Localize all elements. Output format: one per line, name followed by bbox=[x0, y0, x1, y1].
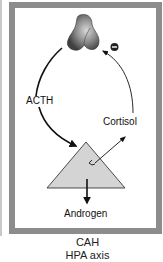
cortisol-label: Cortisol bbox=[103, 117, 137, 127]
hpa-axis-diagram bbox=[0, 0, 163, 262]
cortisol-feedback-arrow bbox=[103, 51, 133, 113]
acth-arrow-lower bbox=[39, 107, 76, 146]
cortisol-output-arrow bbox=[95, 137, 125, 163]
pituitary-gland-icon bbox=[67, 14, 99, 50]
adrenal-triangle-icon bbox=[47, 142, 125, 188]
negative-feedback-icon bbox=[111, 43, 119, 51]
acth-arrow bbox=[36, 48, 62, 96]
androgen-label: Androgen bbox=[64, 209, 107, 219]
caption-title: CAH bbox=[0, 237, 163, 248]
acth-label: ACTH bbox=[26, 96, 53, 106]
caption-subtitle: HPA axis bbox=[0, 250, 163, 261]
